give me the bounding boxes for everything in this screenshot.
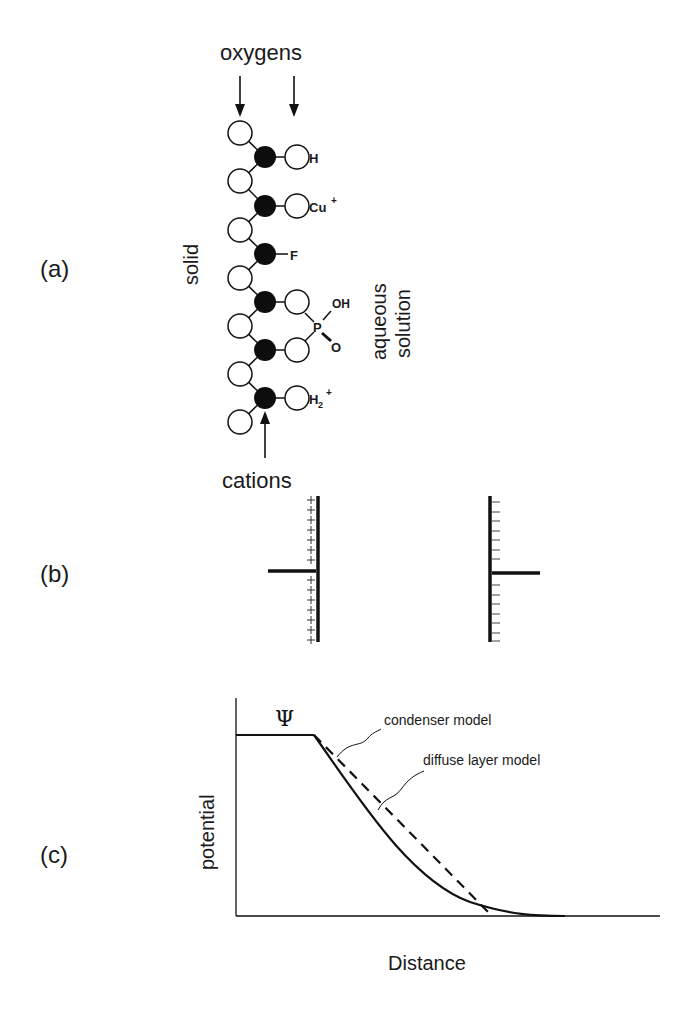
cation-atom-icon (254, 195, 276, 217)
diffuse-layer-label: diffuse layer model (423, 752, 540, 768)
y-axis-label: potential (196, 794, 218, 870)
condenser-model-label: condenser model (384, 712, 491, 728)
oxygens-label: oxygens (220, 40, 302, 65)
panel-b: (b) (40, 496, 540, 644)
panel-a: (a) oxygens solid aqueous solution (40, 40, 414, 493)
solid-label: solid (180, 244, 202, 285)
capacitor-negative (490, 496, 540, 642)
oxygen-atom-icon (228, 218, 252, 242)
condenser-leader-line (337, 729, 381, 757)
capacitor-positive (268, 496, 318, 644)
panel-c: (c) potential Distance Ψ condenser model… (40, 698, 660, 974)
surface-oxygen-atoms (285, 145, 309, 410)
ligand-cu: Cu (309, 200, 326, 215)
oxygen-atom-icon (285, 145, 309, 169)
figure-canvas: (a) oxygens solid aqueous solution (0, 0, 694, 1014)
cation-atoms (254, 146, 276, 409)
oxygen-atom-icon (285, 194, 309, 218)
panel-a-label: (a) (40, 255, 69, 282)
diffuse-leader-line (378, 771, 424, 810)
x-axis-label: Distance (388, 952, 466, 974)
oxygen-atom-icon (285, 386, 309, 410)
ligand-h2-charge: + (326, 387, 332, 398)
panel-c-label: (c) (40, 841, 68, 868)
aqueous-label: aqueous (368, 283, 390, 360)
ligand-oh: OH (332, 297, 350, 311)
panel-b-label: (b) (40, 560, 69, 587)
psi-symbol: Ψ (275, 706, 294, 731)
arrowhead-icon (235, 104, 245, 117)
ligand-cu-charge: + (331, 195, 337, 206)
oxygen-atom-icon (228, 314, 252, 338)
ligand-o: O (331, 340, 341, 355)
cation-atom-icon (254, 243, 276, 265)
chain-bonds (240, 133, 331, 422)
solution-label: solution (392, 289, 414, 358)
ligand-h2-subscript: 2 (318, 400, 323, 410)
ligand-p: P (313, 320, 322, 335)
oxygen-atom-icon (228, 121, 252, 145)
cation-atom-icon (254, 387, 276, 409)
oxygen-atom-icon (285, 338, 309, 362)
ligand-h2: H (309, 392, 318, 407)
solid-oxygen-atoms (228, 121, 252, 434)
cation-atom-icon (254, 291, 276, 313)
oxygen-atom-icon (228, 362, 252, 386)
cation-atom-icon (254, 146, 276, 168)
ligand-h: H (309, 151, 318, 166)
cation-atom-icon (254, 339, 276, 361)
oxygen-atom-icon (228, 169, 252, 193)
oxygen-atom-icon (228, 410, 252, 434)
arrowhead-icon (260, 411, 270, 424)
ligand-f: F (290, 248, 298, 263)
oxygen-atom-icon (285, 290, 309, 314)
oxygen-atom-icon (228, 266, 252, 290)
cations-label: cations (222, 468, 292, 493)
arrowhead-icon (289, 104, 299, 117)
